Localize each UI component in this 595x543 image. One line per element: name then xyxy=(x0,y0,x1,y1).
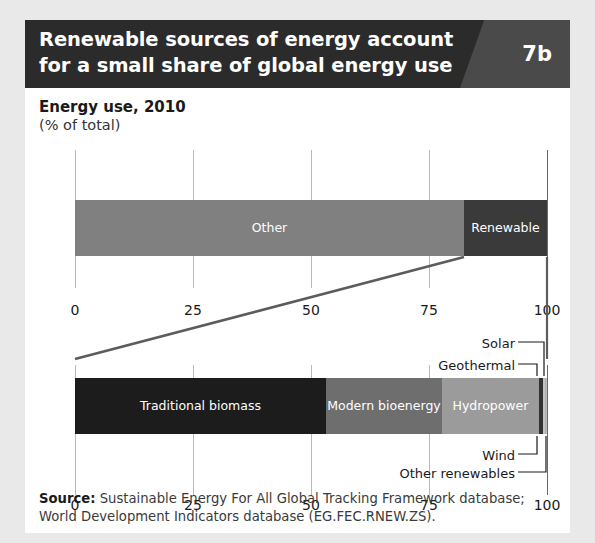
segment-other-renewables xyxy=(546,378,547,434)
segment-label-modern-bioenergy: Modern bioenergy xyxy=(326,378,442,434)
leader-line-wind xyxy=(518,436,537,454)
leader-line-other-renewables xyxy=(518,436,546,472)
segment-label-hydropower: Hydropower xyxy=(442,378,539,434)
segment-label-other: Other xyxy=(75,200,464,256)
tick-label-top-25: 25 xyxy=(173,302,213,318)
tick-label-top-50: 50 xyxy=(291,302,331,318)
callout-label-other-renewables: Other renewables xyxy=(365,466,515,481)
callout-label-wind: Wind xyxy=(440,448,515,463)
source-label: Source: xyxy=(39,491,96,506)
chart-plot-area: Other Renewable 0 25 50 75 100 xyxy=(25,20,570,533)
leader-line-solar xyxy=(518,342,544,376)
source-note: Source: Sustainable Energy For All Globa… xyxy=(39,490,559,526)
tick-label-top-100: 100 xyxy=(527,302,567,318)
source-text: Sustainable Energy For All Global Tracki… xyxy=(39,491,525,524)
tick-label-top-0: 0 xyxy=(55,302,95,318)
segment-label-traditional-biomass: Traditional biomass xyxy=(75,378,326,434)
leader-line-geothermal xyxy=(518,364,537,376)
segment-label-renewable: Renewable xyxy=(464,200,547,256)
callout-label-geothermal: Geothermal xyxy=(395,358,515,373)
callout-label-solar: Solar xyxy=(445,336,515,351)
tick-label-top-75: 75 xyxy=(409,302,449,318)
gridline-bottom-100 xyxy=(547,365,548,495)
page-background: Renewable sources of energy account for … xyxy=(0,0,595,543)
gridline-top-100 xyxy=(547,150,548,288)
figure-card: Renewable sources of energy account for … xyxy=(25,20,570,533)
connector-diagonal-left xyxy=(75,257,464,359)
